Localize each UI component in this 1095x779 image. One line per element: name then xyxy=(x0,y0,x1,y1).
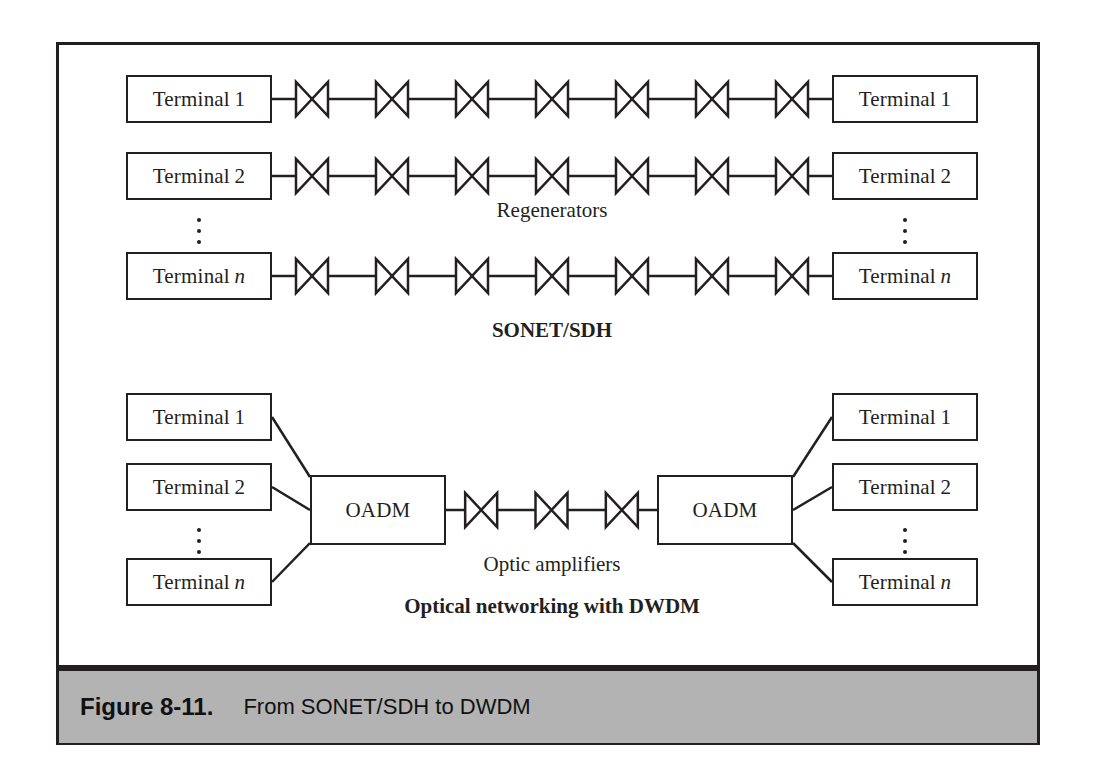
oadm-label: OADM xyxy=(693,498,758,523)
terminal-label: Terminal xyxy=(153,164,230,189)
figure-caption-text: From SONET/SDH to DWDM xyxy=(243,694,530,720)
terminal-index: 2 xyxy=(230,475,245,500)
terminal-label: Terminal xyxy=(859,475,936,500)
right-oadm-box[interactable]: OADM xyxy=(657,475,793,545)
terminal-index: n xyxy=(936,264,951,289)
terminal-label: Terminal xyxy=(153,264,230,289)
sonet-right-ellipsis xyxy=(885,211,925,244)
regenerators-label: Regenerators xyxy=(452,198,652,223)
terminal-label: Terminal xyxy=(859,570,936,595)
sonet-left-terminal-n[interactable]: Terminaln xyxy=(126,252,272,300)
optical-networking-dwdm-label: Optical networking with DWDM xyxy=(402,594,702,619)
terminal-index: 1 xyxy=(936,405,951,430)
dwdm-left-ellipsis xyxy=(179,521,219,554)
figure-caption-band: Figure 8-11. From SONET/SDH to DWDM xyxy=(59,665,1037,743)
dwdm-left-terminal-2[interactable]: Terminal2 xyxy=(126,463,272,511)
terminal-index: n xyxy=(230,570,245,595)
sonet-left-terminal-1[interactable]: Terminal1 xyxy=(126,75,272,123)
sonet-left-terminal-2[interactable]: Terminal2 xyxy=(126,152,272,200)
sonet-right-terminal-2[interactable]: Terminal2 xyxy=(832,152,978,200)
sonet-right-terminal-1[interactable]: Terminal1 xyxy=(832,75,978,123)
terminal-label: Terminal xyxy=(153,405,230,430)
terminal-label: Terminal xyxy=(859,405,936,430)
terminal-index: 1 xyxy=(230,87,245,112)
terminal-label: Terminal xyxy=(153,570,230,595)
terminal-label: Terminal xyxy=(153,475,230,500)
sonet-sdh-label: SONET/SDH xyxy=(452,318,652,343)
dwdm-right-terminal-1[interactable]: Terminal1 xyxy=(832,393,978,441)
dwdm-left-terminal-1[interactable]: Terminal1 xyxy=(126,393,272,441)
left-oadm-box[interactable]: OADM xyxy=(310,475,446,545)
terminal-index: 2 xyxy=(936,164,951,189)
terminal-index: 2 xyxy=(230,164,245,189)
terminal-label: Terminal xyxy=(153,87,230,112)
optic-amplifiers-label: Optic amplifiers xyxy=(450,552,654,577)
terminal-label: Terminal xyxy=(859,164,936,189)
terminal-index: n xyxy=(936,570,951,595)
dwdm-right-ellipsis xyxy=(885,521,925,554)
terminal-index: 2 xyxy=(936,475,951,500)
sonet-left-ellipsis xyxy=(179,211,219,244)
terminal-index: 1 xyxy=(936,87,951,112)
terminal-label: Terminal xyxy=(859,264,936,289)
terminal-label: Terminal xyxy=(859,87,936,112)
figure-page: Terminal1 Terminal2 Terminaln Terminal1 … xyxy=(0,0,1095,779)
terminal-index: n xyxy=(230,264,245,289)
figure-caption-number: Figure 8-11. xyxy=(80,693,213,721)
oadm-label: OADM xyxy=(346,498,411,523)
sonet-right-terminal-n[interactable]: Terminaln xyxy=(832,252,978,300)
terminal-index: 1 xyxy=(230,405,245,430)
dwdm-left-terminal-n[interactable]: Terminaln xyxy=(126,558,272,606)
dwdm-right-terminal-2[interactable]: Terminal2 xyxy=(832,463,978,511)
dwdm-right-terminal-n[interactable]: Terminaln xyxy=(832,558,978,606)
